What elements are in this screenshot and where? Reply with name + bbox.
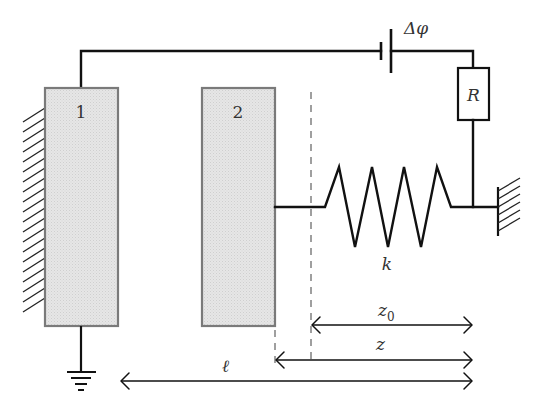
l-dimension-arrow <box>121 373 472 389</box>
z-dimension-arrow <box>276 352 472 368</box>
battery-icon <box>381 29 391 73</box>
top-wire <box>81 51 381 88</box>
plate-1-label: 1 <box>76 102 87 122</box>
top-wire-right <box>391 51 473 68</box>
plate-1 <box>45 88 118 326</box>
capacitor-spring-diagram: Δφ R 1 2 k z0 <box>0 0 550 408</box>
battery-label: Δφ <box>403 18 428 38</box>
resistor-label: R <box>466 85 480 105</box>
left-wall-hatch <box>23 108 45 312</box>
plate-2 <box>202 88 275 326</box>
plate-2-label: 2 <box>233 102 244 122</box>
l-label: ℓ <box>222 356 229 376</box>
spring-icon <box>275 167 498 247</box>
z0-label: z0 <box>377 300 395 324</box>
spring-label: k <box>382 254 392 274</box>
z-label: z <box>375 334 386 354</box>
right-wall-hatch <box>498 178 520 231</box>
ground-icon <box>67 326 96 390</box>
